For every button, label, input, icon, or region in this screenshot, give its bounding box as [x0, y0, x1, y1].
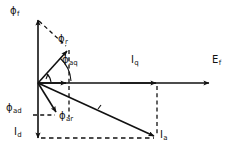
label-phi-ad-base: ϕ	[6, 102, 13, 113]
label-e-f-sub: f	[219, 59, 221, 67]
label-phi-ad: ϕad	[6, 103, 22, 113]
label-i-d: Id	[14, 127, 22, 137]
label-phi-ar-sub: ar	[66, 115, 73, 123]
label-phi-r-sub: r	[65, 38, 68, 46]
label-phi-aq: ϕaq	[62, 55, 78, 65]
label-phi-aq-sub: aq	[69, 59, 78, 67]
label-i-d-sub: d	[17, 131, 21, 139]
ia-vector	[38, 83, 154, 136]
ia-midpoint-tick	[98, 105, 101, 109]
label-e-f: Ef	[212, 55, 221, 65]
label-phi-ad-sub: ad	[13, 107, 22, 115]
construction-line-group	[33, 21, 157, 138]
label-i-a-sub: a	[163, 134, 167, 142]
phasor-diagram-canvas	[0, 0, 232, 164]
label-i-q-sub: q	[134, 59, 138, 67]
label-phi-ar-base: ϕ	[59, 110, 66, 121]
label-i-a: Ia	[160, 130, 168, 140]
label-i-q: Iq	[131, 55, 139, 65]
label-phi-r-base: ϕ	[58, 33, 65, 44]
tick-group	[46, 74, 101, 109]
phasor-diagram: ϕf ϕr ϕaq ϕad ϕar Iq Id Ia Ef	[0, 0, 232, 164]
label-phi-aq-base: ϕ	[62, 54, 69, 65]
label-phi-f-base: ϕ	[10, 5, 17, 16]
label-phi-r: ϕr	[58, 34, 68, 44]
label-phi-f: ϕf	[10, 6, 19, 16]
label-phi-ar: ϕar	[59, 111, 73, 121]
label-e-f-base: E	[212, 54, 218, 65]
